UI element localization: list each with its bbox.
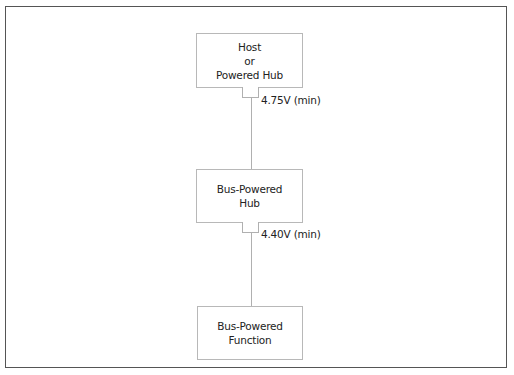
voltage-label-2: 4.40V (min) bbox=[261, 228, 321, 240]
node-bus-powered-function: Bus-Powered Function bbox=[197, 306, 303, 360]
node-host-or-powered-hub: Host or Powered Hub bbox=[196, 33, 303, 88]
cable-line-2 bbox=[251, 232, 252, 307]
node-label-line: or bbox=[244, 54, 254, 68]
node-label-line: Function bbox=[228, 333, 271, 347]
node-label-line: Bus-Powered bbox=[217, 319, 283, 333]
node-bus-powered-hub: Bus-Powered Hub bbox=[196, 169, 303, 223]
node-label-line: Bus-Powered bbox=[217, 182, 283, 196]
node-label-line: Powered Hub bbox=[216, 68, 283, 82]
cable-line-1 bbox=[251, 97, 252, 170]
node-label-line: Hub bbox=[239, 196, 260, 210]
node-label-line: Host bbox=[238, 40, 261, 54]
voltage-label-1: 4.75V (min) bbox=[261, 94, 321, 106]
